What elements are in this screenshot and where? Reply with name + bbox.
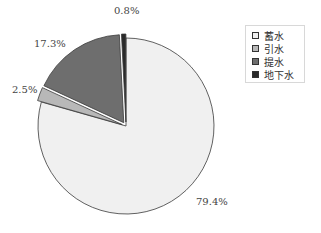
legend-item-groundwater: 地下水 <box>252 68 304 81</box>
legend-swatch-icon <box>252 58 259 65</box>
legend-label: 地下水 <box>264 67 294 82</box>
legend-swatch-icon <box>252 45 259 52</box>
slice-percent-label: 0.8% <box>114 5 139 16</box>
slice-percent-label: 17.3% <box>34 38 66 49</box>
legend-swatch-icon <box>252 32 259 39</box>
slice-percent-label: 2.5% <box>12 84 37 95</box>
slice-percent-label: 79.4% <box>196 196 228 207</box>
pie-slices <box>38 34 214 214</box>
legend-swatch-icon <box>252 71 259 78</box>
legend: 蓄水 引水 提水 地下水 <box>245 25 305 83</box>
